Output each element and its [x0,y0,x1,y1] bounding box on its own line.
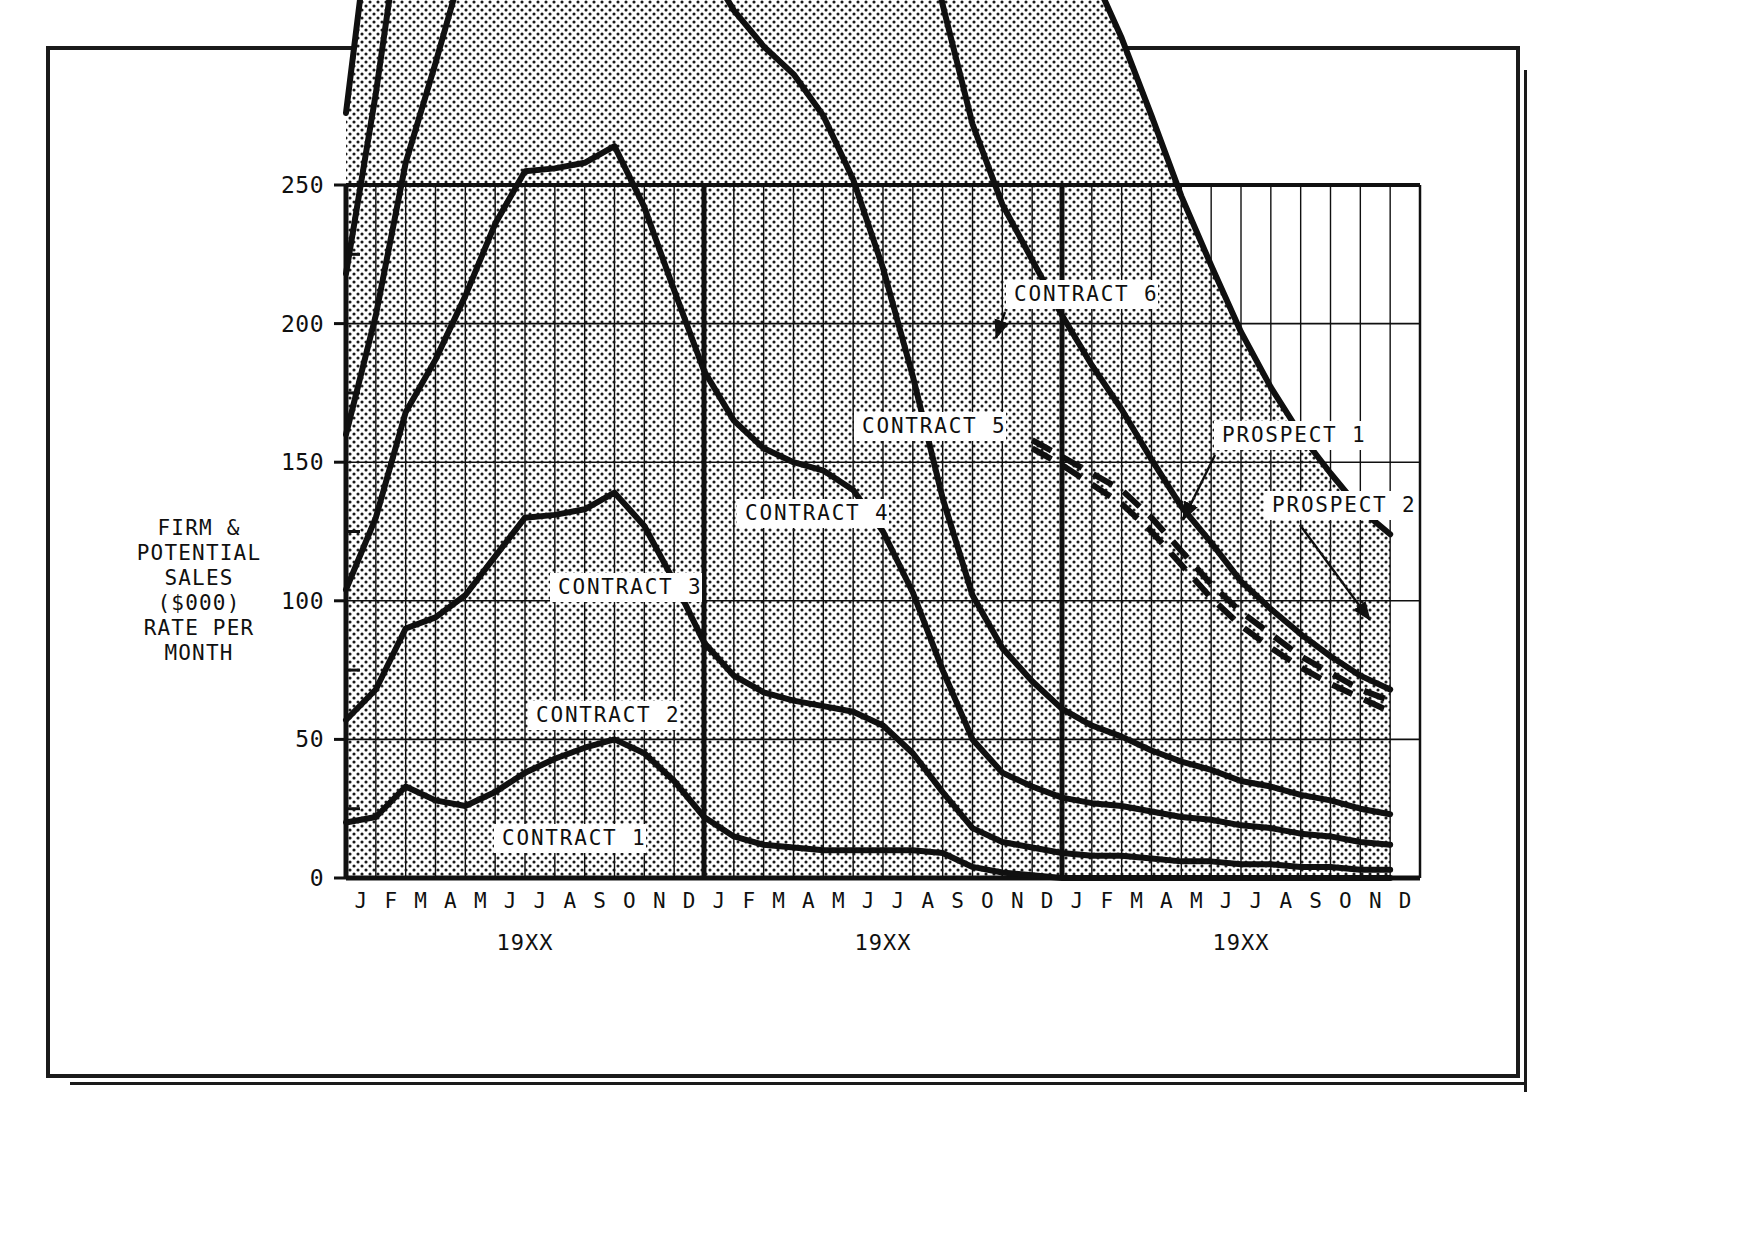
x-tick-label: F [384,889,397,913]
series-label: CONTRACT 2 [536,703,680,727]
x-tick-label: A [921,889,934,913]
y-tick-label: 50 [295,726,324,752]
series-label: CONTRACT 1 [502,826,646,850]
series-label: CONTRACT 5 [862,414,1006,438]
x-tick-label: S [1309,889,1322,913]
x-tick-label: J [713,889,726,913]
x-tick-label: N [1369,889,1382,913]
series-label: CONTRACT 4 [745,501,889,525]
x-tick-label: A [563,889,576,913]
x-tick-label: J [534,889,547,913]
x-tick-label: M [1190,889,1203,913]
x-group-label: 19XX [497,930,554,955]
x-group-label: 19XX [1213,930,1270,955]
y-tick-label: 250 [281,172,324,198]
series-label: CONTRACT 3 [558,575,702,599]
y-tick-label: 200 [281,311,324,337]
x-tick-label: N [1011,889,1024,913]
series-label: CONTRACT 6 [1014,282,1158,306]
x-tick-label: S [593,889,606,913]
x-tick-label: N [653,889,666,913]
x-tick-label: M [414,889,427,913]
x-tick-label: F [1100,889,1113,913]
x-group-label: 19XX [855,930,912,955]
x-tick-label: A [444,889,457,913]
x-tick-label: J [355,889,368,913]
x-tick-label: J [892,889,905,913]
x-tick-label: O [1339,889,1352,913]
x-tick-label: J [1220,889,1233,913]
x-tick-label: O [623,889,636,913]
x-tick-label: M [474,889,487,913]
x-tick-label: A [1160,889,1173,913]
x-tick-label: M [832,889,845,913]
x-tick-label: D [1399,889,1412,913]
x-tick-label: F [742,889,755,913]
y-tick-label: 150 [281,449,324,475]
x-tick-label: J [1250,889,1263,913]
x-tick-label: A [802,889,815,913]
x-tick-label: D [683,889,696,913]
x-tick-label: D [1041,889,1054,913]
x-tick-label: M [1130,889,1143,913]
x-tick-label: J [1071,889,1084,913]
x-tick-label: O [981,889,994,913]
y-tick-label: 100 [281,588,324,614]
x-tick-label: A [1279,889,1292,913]
x-tick-label: M [772,889,785,913]
series-label: PROSPECT 1 [1222,423,1366,447]
chart-plot-area: 050100150200250JFMAMJJASONDJFMAMJJASONDJ… [0,0,1740,1245]
y-tick-label: 0 [310,865,324,891]
x-tick-label: J [504,889,517,913]
x-tick-label: J [862,889,875,913]
series-label: PROSPECT 2 [1272,493,1416,517]
x-tick-label: S [951,889,964,913]
